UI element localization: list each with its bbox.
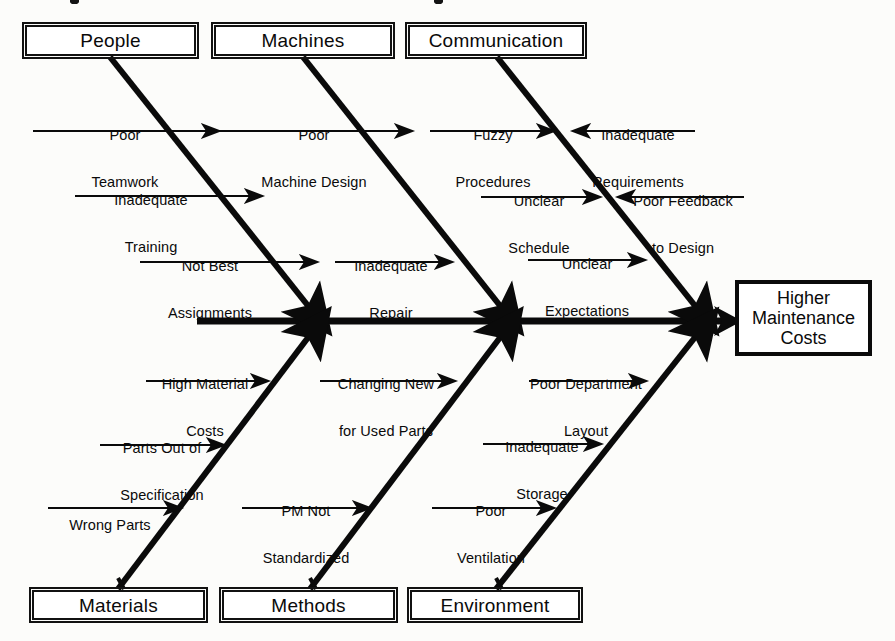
cause-label-inadequate-repair: Inadequate Repair	[335, 228, 447, 353]
cause-line1: Poor	[240, 128, 388, 144]
fishbone-diagram-canvas: People Machines Communication Materials …	[0, 0, 895, 641]
effect-box-higher-maintenance-costs[interactable]: Higher Maintenance Costs	[735, 280, 872, 356]
cause-line2: Repair	[335, 306, 447, 322]
cause-line1: Changing New	[318, 377, 454, 393]
category-box-machines[interactable]: Machines	[214, 25, 392, 56]
category-box-communication[interactable]: Communication	[408, 25, 584, 56]
category-box-people[interactable]: People	[25, 25, 196, 56]
effect-label-group: Higher Maintenance Costs	[752, 288, 855, 348]
cause-label-wrong-parts: Wrong Parts	[48, 487, 172, 597]
effect-label-line3: Costs	[752, 328, 855, 348]
cropped-title-fragment	[0, 0, 895, 8]
cause-line1: Poor	[432, 504, 550, 520]
cause-line1: Unclear	[483, 194, 595, 210]
cause-line1: Poor	[70, 128, 180, 144]
cause-line1: PM Not	[243, 504, 369, 520]
effect-label-line2: Maintenance	[752, 308, 855, 328]
cause-line1: Fuzzy	[434, 128, 552, 144]
category-box-methods[interactable]: Methods	[222, 590, 395, 620]
category-label-machines: Machines	[262, 31, 345, 50]
title-fragment-mark-right	[434, 0, 443, 4]
cause-line1: Not Best	[145, 259, 275, 275]
title-fragment-mark-left	[70, 0, 79, 4]
category-label-people: People	[80, 31, 140, 50]
category-label-methods: Methods	[271, 596, 345, 615]
category-box-materials[interactable]: Materials	[32, 590, 205, 620]
cause-line2: Machine Design	[240, 175, 388, 191]
cause-line1: High Material	[143, 377, 267, 393]
cause-line1: Parts Out of	[100, 441, 224, 457]
cause-line1: Inadequate	[570, 128, 706, 144]
cause-line2: Assignments	[145, 306, 275, 322]
cause-label-not-best-assignments: Not Best Assignments	[145, 228, 275, 353]
category-label-materials: Materials	[79, 596, 158, 615]
cause-line1: Wrong Parts	[48, 518, 172, 534]
cause-label-pm-not-standardized: PM Not Standardized	[243, 473, 369, 598]
cause-label-unclear-expectations: Unclear Expectations	[523, 226, 651, 351]
cause-line2: Expectations	[523, 304, 651, 320]
cause-label-poor-machine-design: Poor Machine Design	[240, 97, 388, 222]
category-label-environment: Environment	[441, 596, 550, 615]
cause-line2: Ventilation	[432, 551, 550, 567]
cause-line1: Inadequate	[485, 440, 599, 456]
category-label-communication: Communication	[429, 31, 564, 50]
spine-group	[197, 306, 742, 336]
cause-line1: Poor Feedback	[617, 194, 749, 210]
cause-line1: Inadequate	[335, 259, 447, 275]
effect-label-line1: Higher	[752, 288, 855, 308]
cause-line2: for Used Parts	[318, 424, 454, 440]
cause-label-poor-ventilation: Poor Ventilation	[432, 473, 550, 598]
cause-label-changing-new-for-used-parts: Changing New for Used Parts	[318, 346, 454, 471]
cause-line1: Unclear	[523, 257, 651, 273]
cause-line2: Standardized	[243, 551, 369, 567]
cause-line1: Poor Department	[513, 377, 659, 393]
cause-line1: Inadequate	[95, 193, 207, 209]
category-box-environment[interactable]: Environment	[410, 590, 580, 620]
